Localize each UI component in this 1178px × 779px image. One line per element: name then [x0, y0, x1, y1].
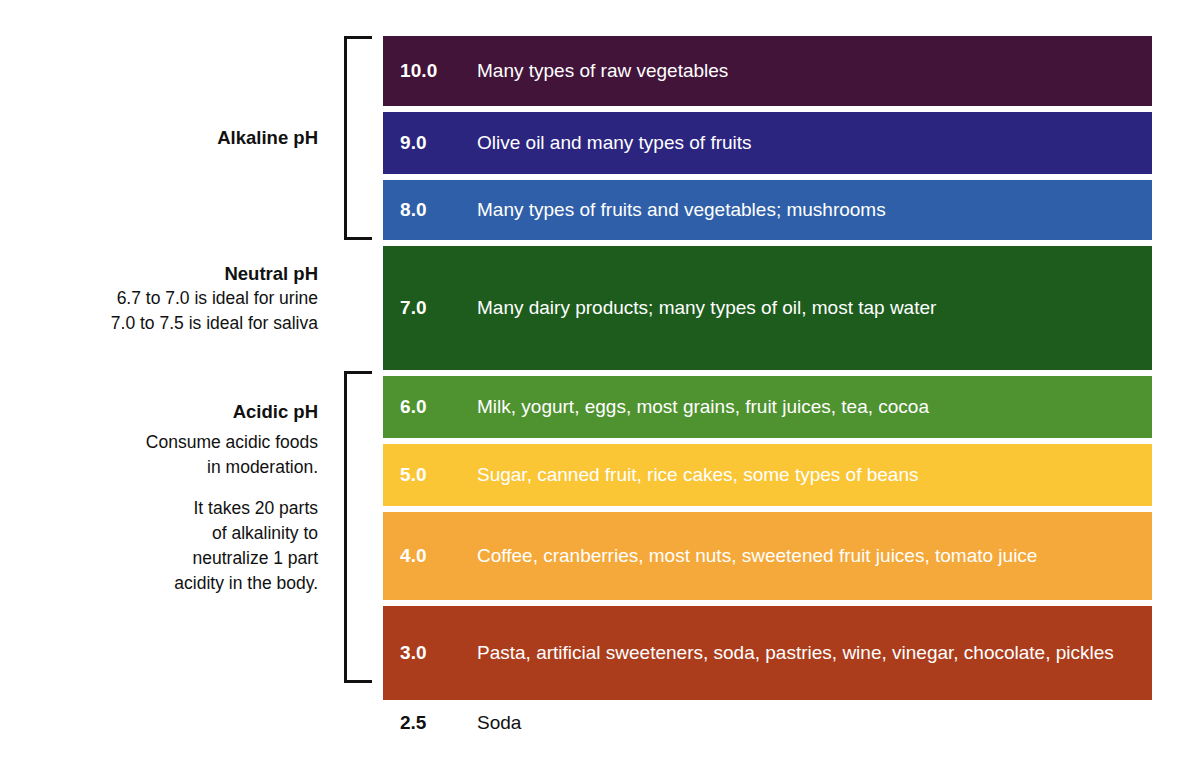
ph-foods-8-0: Many types of fruits and vegetables; mus… [477, 197, 1152, 222]
group-note-neutral: 6.7 to 7.0 is ideal for urine 7.0 to 7.5… [0, 286, 318, 336]
ph-value-7-0: 7.0 [400, 297, 477, 319]
bracket-alkaline [344, 36, 372, 240]
acidic-note-paragraph-2: It takes 20 parts of alkalinity to neutr… [0, 496, 318, 595]
ph-bar-4-0: 4.0Coffee, cranberries, most nuts, sweet… [383, 512, 1152, 600]
acidic-note-line-2: in moderation. [0, 455, 318, 480]
ph-value-3-0: 3.0 [400, 642, 477, 664]
ph-bar-stack: 10.0Many types of raw vegetables9.0Olive… [383, 36, 1152, 706]
acidic-note-line-1: Consume acidic foods [0, 430, 318, 455]
ph-bar-8-0: 8.0Many types of fruits and vegetables; … [383, 180, 1152, 240]
group-title-acidic: Acidic pH [0, 400, 318, 424]
ph-value-9-0: 9.0 [400, 132, 477, 154]
group-title-alkaline: Alkaline pH [0, 126, 318, 150]
ph-value-5-0: 5.0 [400, 464, 477, 486]
bracket-acidic [344, 371, 372, 683]
group-note-acidic: Consume acidic foods in moderation. It t… [0, 430, 318, 595]
ph-foods-3-0: Pasta, artificial sweeteners, soda, past… [477, 640, 1152, 665]
neutral-note-line-1: 6.7 to 7.0 is ideal for urine [0, 286, 318, 311]
ph-foods-10-0: Many types of raw vegetables [477, 58, 1152, 83]
acidic-note-paragraph-1: Consume acidic foods in moderation. [0, 430, 318, 480]
ph-foods-4-0: Coffee, cranberries, most nuts, sweetene… [477, 543, 1152, 568]
ph-value-6-0: 6.0 [400, 396, 477, 418]
ph-foods-9-0: Olive oil and many types of fruits [477, 130, 1152, 155]
group-label-acidic: Acidic pH Consume acidic foods in modera… [0, 400, 318, 595]
ph-bar-6-0: 6.0Milk, yogurt, eggs, most grains, frui… [383, 376, 1152, 438]
group-label-alkaline: Alkaline pH [0, 126, 318, 150]
ph-foods-6-0: Milk, yogurt, eggs, most grains, fruit j… [477, 394, 1152, 419]
ph-row-2-5: 2.5 Soda [383, 712, 1152, 734]
neutral-note-line-2: 7.0 to 7.5 is ideal for saliva [0, 311, 318, 336]
acidic-note-line-6: acidity in the body. [0, 571, 318, 596]
ph-value-8-0: 8.0 [400, 199, 477, 221]
ph-value-4-0: 4.0 [400, 545, 477, 567]
acidic-note-line-5: neutralize 1 part [0, 546, 318, 571]
ph-bar-10-0: 10.0Many types of raw vegetables [383, 36, 1152, 106]
group-title-neutral: Neutral pH [0, 262, 318, 286]
ph-foods-5-0: Sugar, canned fruit, rice cakes, some ty… [477, 462, 1152, 487]
group-label-neutral: Neutral pH 6.7 to 7.0 is ideal for urine… [0, 262, 318, 336]
ph-scale-infographic: Alkaline pH Neutral pH 6.7 to 7.0 is ide… [0, 0, 1178, 779]
ph-value-10-0: 10.0 [400, 60, 477, 82]
acidic-note-line-4: of alkalinity to [0, 521, 318, 546]
ph-bar-7-0: 7.0Many dairy products; many types of oi… [383, 246, 1152, 370]
acidic-note-line-3: It takes 20 parts [0, 496, 318, 521]
ph-bar-5-0: 5.0Sugar, canned fruit, rice cakes, some… [383, 444, 1152, 506]
ph-bar-3-0: 3.0Pasta, artificial sweeteners, soda, p… [383, 606, 1152, 700]
ph-foods-7-0: Many dairy products; many types of oil, … [477, 295, 1152, 320]
ph-value-2-5: 2.5 [400, 712, 477, 734]
ph-bar-9-0: 9.0Olive oil and many types of fruits [383, 112, 1152, 174]
ph-foods-2-5: Soda [477, 712, 521, 734]
